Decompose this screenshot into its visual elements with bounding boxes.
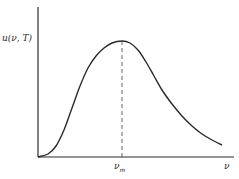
x-axis-label: ν (224, 161, 229, 171)
chart-canvas (0, 0, 239, 179)
energy-density-curve (38, 41, 222, 157)
y-axis-label: u(ν, T) (2, 33, 32, 43)
x-tick-nu-m: νm (114, 161, 125, 173)
x-tick-nu-m-sub: m (119, 166, 125, 173)
